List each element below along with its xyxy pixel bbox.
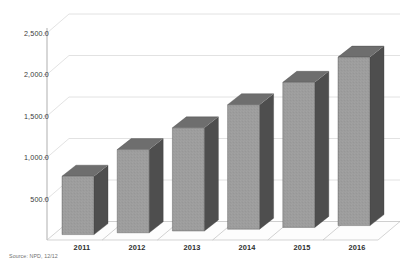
x-tick-label-2016: 2016 [333,243,381,252]
bar-chart: 500.0 1,000.0 1,500.0 2,000.0 2,500.0 20… [0,0,406,277]
x-tick-label-2011: 2011 [58,243,106,252]
source-note: Source: NPD, 12/12 [9,253,58,259]
x-tick-label-2012: 2012 [113,243,161,252]
x-tick-label-2013: 2013 [168,243,216,252]
x-tick-label-2014: 2014 [223,243,271,252]
x-tick-label-2015: 2015 [278,243,326,252]
x-axis-labels: 2011 2012 2013 2014 2015 2016 [0,0,406,277]
